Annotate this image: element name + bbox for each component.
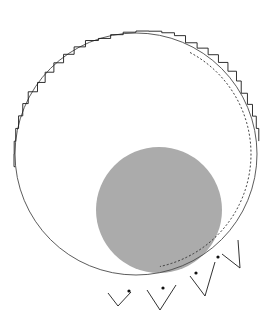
vertex-marker [127, 289, 130, 292]
jagged-polygon-boundary [14, 31, 259, 167]
gray-disk [96, 147, 222, 273]
vertex-marker [216, 255, 219, 258]
vertex-marker [194, 271, 197, 274]
spike-4 [222, 240, 240, 268]
spike-1 [108, 292, 131, 306]
vertex-marker [161, 286, 164, 289]
figure-container [0, 0, 274, 321]
spike-3 [190, 262, 215, 296]
geometric-figure-svg [0, 0, 274, 321]
spike-2 [147, 285, 176, 310]
